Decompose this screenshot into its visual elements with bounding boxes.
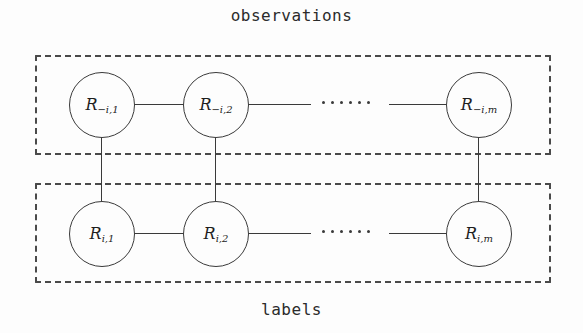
edge-vertical-col-1: [101, 135, 102, 201]
node-label-m[interactable]: Ri,m: [446, 201, 512, 267]
node-label-m-label: Ri,m: [465, 226, 493, 242]
edge-bottom-1-2: [132, 233, 184, 234]
node-observation-1[interactable]: R−i,1: [69, 72, 135, 138]
observations-caption: observations: [0, 6, 583, 25]
edge-bottom-ellipsis-m: [389, 233, 446, 234]
ellipsis-bottom-row: [322, 230, 370, 233]
node-label-2-label: Ri,2: [204, 226, 229, 242]
ellipsis-top-row: [322, 101, 370, 104]
node-observation-1-label: R−i,1: [85, 97, 118, 113]
node-label-1[interactable]: Ri,1: [69, 201, 135, 267]
diagram-canvas: observations R−i,1 R−i,2 R−i,m Ri,1: [0, 0, 583, 333]
edge-vertical-col-2: [215, 135, 216, 201]
edge-bottom-2-ellipsis: [246, 233, 311, 234]
node-observation-m-label: R−i,m: [461, 97, 497, 113]
node-label-1-label: Ri,1: [90, 226, 115, 242]
node-label-2[interactable]: Ri,2: [183, 201, 249, 267]
node-observation-m[interactable]: R−i,m: [446, 72, 512, 138]
labels-caption: labels: [0, 300, 583, 319]
edge-top-2-ellipsis: [246, 104, 311, 105]
edge-top-1-2: [132, 104, 184, 105]
node-observation-2-label: R−i,2: [199, 97, 232, 113]
edge-top-ellipsis-m: [389, 104, 446, 105]
edge-vertical-col-m: [478, 135, 479, 201]
node-observation-2[interactable]: R−i,2: [183, 72, 249, 138]
